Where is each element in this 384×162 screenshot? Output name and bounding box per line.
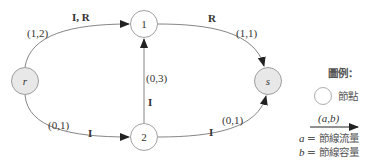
legend-arrow-label: (a,b) (318, 112, 339, 125)
edge-1-s-flowcap: (1,1) (236, 27, 257, 40)
node-r-label: r (23, 75, 28, 87)
legend-node-label: 節點 (338, 90, 359, 102)
node-2-label: 2 (141, 131, 147, 143)
legend-node-icon (315, 88, 332, 105)
edge-1-s-path: R (208, 12, 217, 24)
edge-r-1-flowcap: (1,2) (27, 27, 48, 40)
legend-a-var: a (299, 132, 305, 144)
node-1-label: 1 (141, 18, 147, 30)
edge-2-1-flowcap: (0,3) (146, 72, 167, 85)
legend-a-desc: = 節線流量 (307, 132, 360, 144)
edge-r-2 (25, 95, 129, 137)
node-2: 2 (131, 124, 158, 151)
legend-b-var: b (299, 146, 305, 158)
edge-2-1-path: I (148, 96, 152, 108)
edge-2-s-path: I (209, 126, 213, 138)
legend-b-desc: = 節線容量 (307, 146, 360, 158)
edge-r-2-flowcap: (0,1) (48, 119, 69, 132)
legend: 圖例： 節點 (a,b) a = 節線流量 b = 節線容量 (299, 67, 360, 158)
legend-title: 圖例： (328, 67, 358, 79)
edge-2-s-flowcap: (0,1) (222, 114, 243, 127)
edge-r-2-path: I (88, 127, 92, 139)
node-r: r (12, 68, 39, 95)
edge-r-1-path: I, R (72, 11, 91, 23)
node-1: 1 (131, 11, 158, 38)
flow-network-diagram: (1,2) I, R R (1,1) (0,3) I (0,1) I (0,1)… (0, 0, 384, 162)
node-s-label: s (266, 75, 270, 87)
node-s: s (255, 68, 282, 95)
